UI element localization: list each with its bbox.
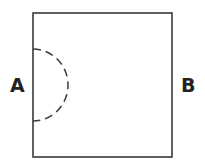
square-outline	[33, 13, 172, 157]
dashed-semicircle	[33, 49, 68, 121]
label-b: B	[181, 74, 195, 96]
label-a: A	[10, 74, 25, 96]
diagram-canvas: A B	[0, 0, 205, 163]
